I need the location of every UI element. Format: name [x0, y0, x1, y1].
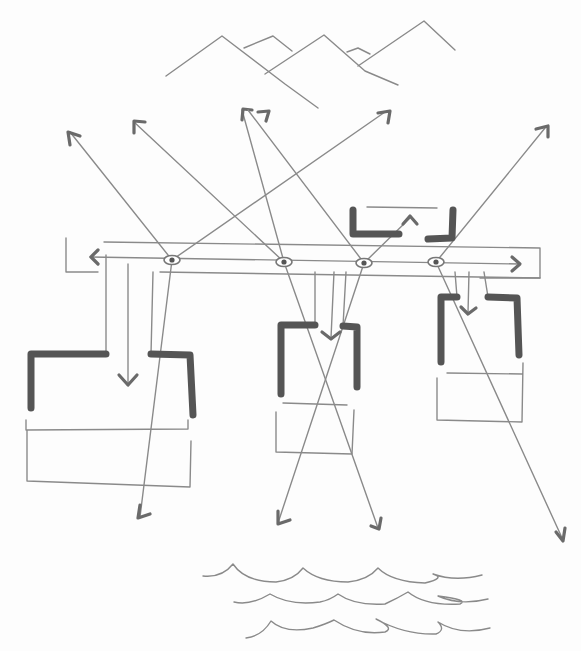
concept-diagram [0, 0, 581, 651]
walkway-edge [160, 272, 540, 278]
sightline [248, 110, 364, 263]
sightline [278, 263, 364, 523]
arrow-head-icon [138, 505, 150, 518]
pavilion-wall [151, 354, 193, 415]
pavilion-wall [428, 210, 453, 239]
sightline [284, 262, 378, 528]
arrow-head-icon [242, 109, 252, 120]
pavilion-base [26, 420, 191, 487]
mountain-outline [166, 36, 318, 108]
mountain-outline [347, 48, 370, 54]
sightline [436, 262, 563, 540]
pavilion-wall [488, 297, 519, 355]
pavilion-base [437, 363, 523, 422]
water-waves [203, 564, 490, 638]
sightline [436, 128, 545, 262]
pavilion-right [437, 272, 523, 422]
pavilion-connector [151, 272, 153, 354]
pavilion-wall [441, 297, 457, 362]
sketch-canvas: Hand-drawn architectural concept sketch:… [0, 0, 581, 651]
arrow-head-icon [258, 111, 269, 121]
pavilion-connector [484, 272, 488, 297]
arrow-head-icon [403, 216, 417, 224]
walkway-spine [90, 257, 520, 264]
wave-line [203, 564, 482, 583]
mountain-outline [265, 35, 398, 85]
eye-icon [164, 256, 180, 265]
arrow-head-icon [378, 111, 390, 123]
pavilion-center [276, 272, 357, 454]
pavilions [26, 207, 523, 487]
wave-line [234, 592, 488, 604]
mountains [166, 21, 455, 108]
pavilion-base [367, 207, 437, 208]
wave-line [246, 619, 490, 638]
eye-icon [356, 259, 372, 268]
sightline [70, 132, 172, 260]
entry-line [468, 272, 469, 313]
pavilion-connector [455, 272, 457, 297]
sightline [140, 260, 172, 517]
sightline [172, 112, 385, 260]
entry-line [331, 272, 334, 338]
eye-icon [428, 258, 444, 267]
pavilion-wall [31, 354, 106, 408]
mountain-outline [358, 21, 455, 66]
mountain-outline [244, 36, 292, 51]
eye-icon [276, 258, 292, 267]
pavilion-wall [353, 210, 399, 234]
pavilion-wall [343, 326, 357, 387]
